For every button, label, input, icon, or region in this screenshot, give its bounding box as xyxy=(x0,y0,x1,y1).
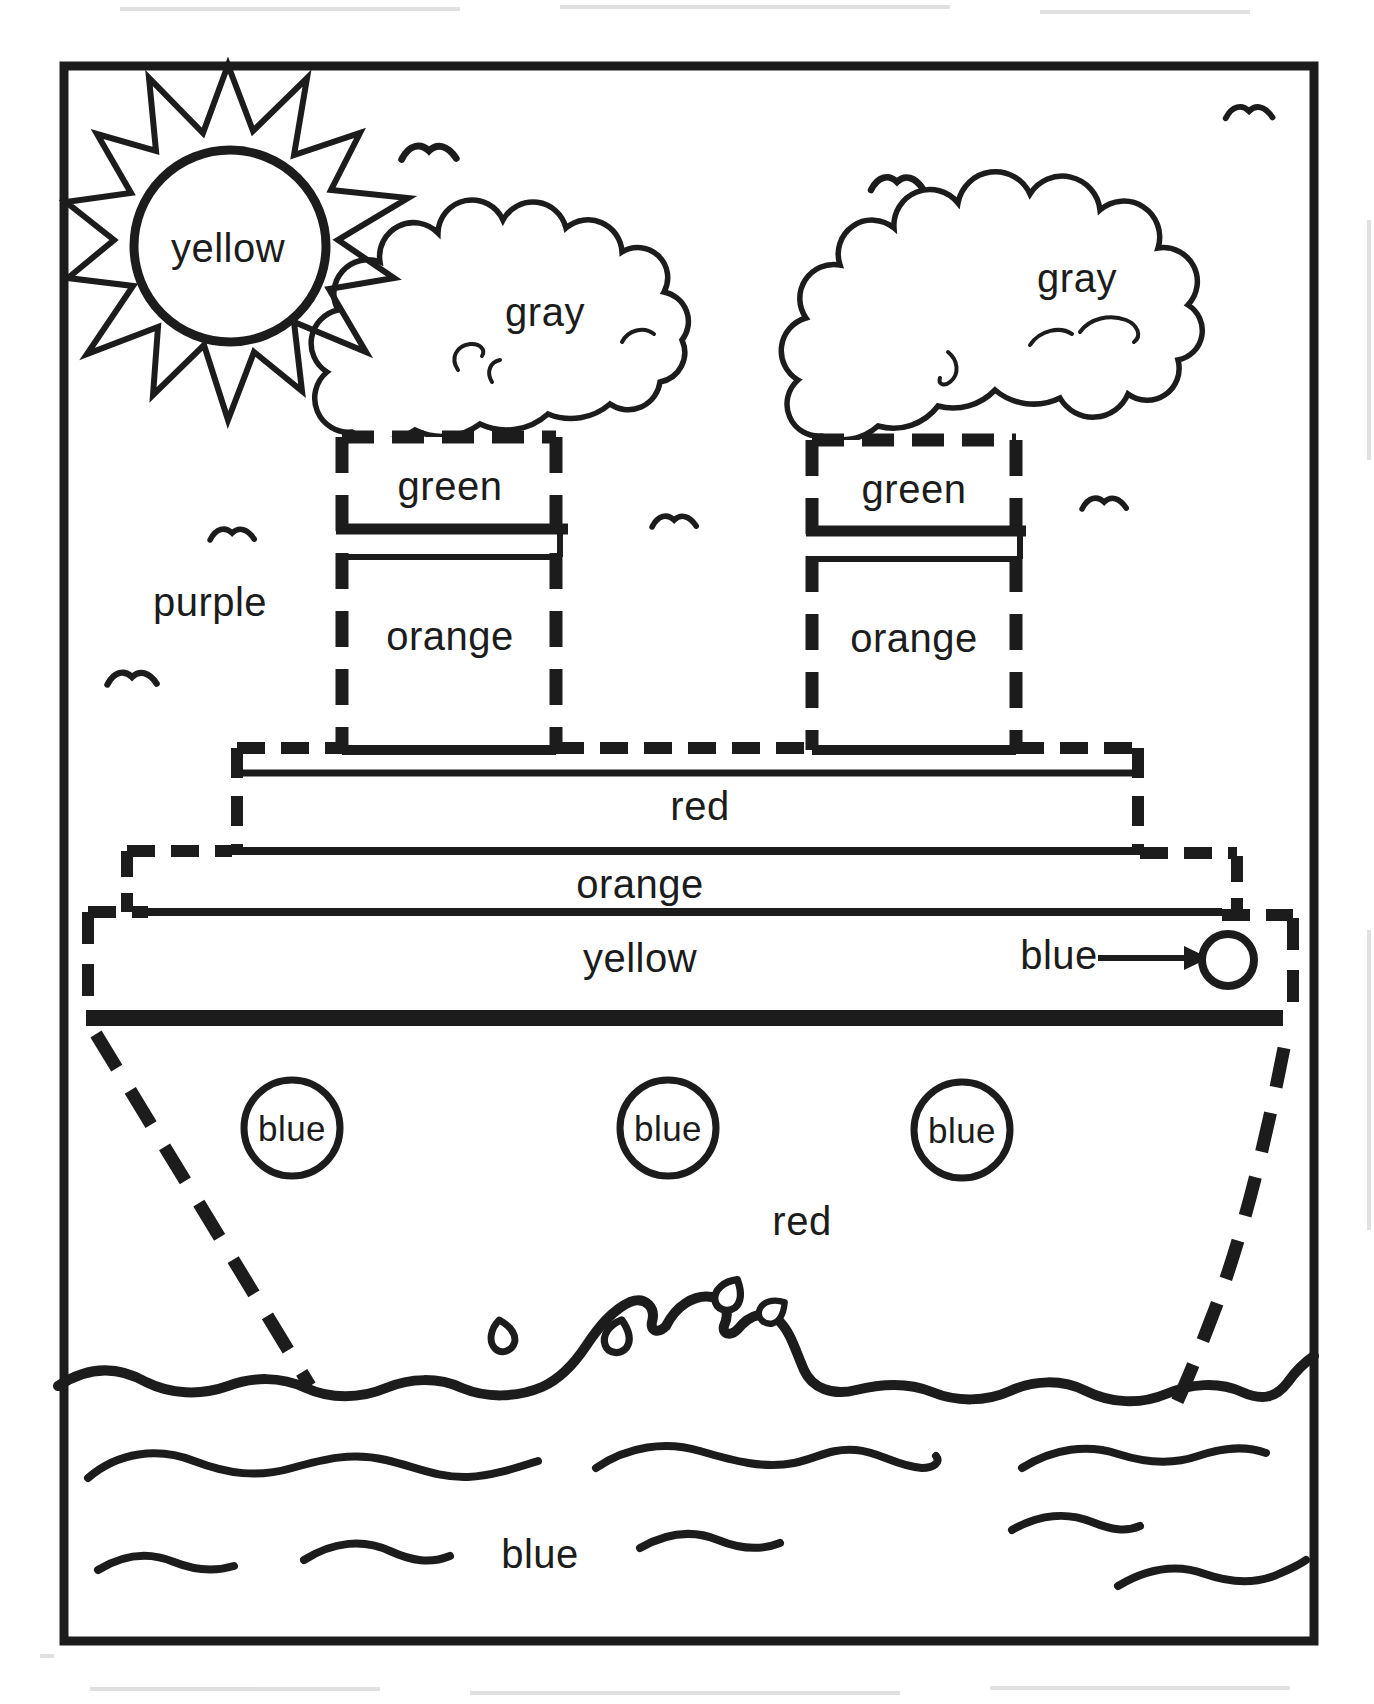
hull-porthole-label: blue xyxy=(258,1111,326,1146)
smoke-left-label: gray xyxy=(505,292,585,332)
wave-line xyxy=(304,1544,450,1561)
bird-icon xyxy=(107,673,156,685)
water xyxy=(58,1274,1314,1586)
splash-droplets xyxy=(487,1274,791,1355)
deck-porthole-label: blue xyxy=(1020,935,1098,975)
hull-porthole-label: blue xyxy=(634,1111,702,1146)
bird-icon xyxy=(1082,498,1126,509)
wave-line xyxy=(98,1556,234,1570)
bird-icon xyxy=(210,529,254,540)
hull-stern-line xyxy=(1167,1048,1284,1422)
sky-label: purple xyxy=(153,582,267,622)
wave-line xyxy=(640,1534,780,1548)
coloring-page: yellow gray gray green orange green oran… xyxy=(0,0,1374,1704)
wave-line xyxy=(1012,1516,1140,1530)
wave-line xyxy=(88,1453,538,1478)
deck-porthole-circle xyxy=(1202,934,1254,986)
lower-deck-label: yellow xyxy=(583,938,697,978)
waterline xyxy=(58,1297,1314,1402)
smoke-right-label: gray xyxy=(1037,258,1117,298)
hull-bow-line xyxy=(96,1034,310,1386)
bird-icon xyxy=(402,146,457,159)
smoke-cloud-left xyxy=(311,200,688,440)
hull-label: red xyxy=(772,1201,831,1241)
hull xyxy=(96,1034,1284,1422)
funnel-left-body-label: orange xyxy=(386,616,514,656)
hull-porthole-label: blue xyxy=(928,1113,996,1148)
splash-droplet xyxy=(487,1317,518,1354)
bird-icon xyxy=(652,516,696,527)
wave-line xyxy=(1022,1448,1266,1468)
wave-line xyxy=(596,1446,938,1468)
wave-lines xyxy=(88,1446,1306,1586)
water-label: blue xyxy=(501,1534,579,1574)
splash-droplet xyxy=(711,1274,747,1315)
funnel-left-band-label: green xyxy=(398,466,503,506)
wave-line xyxy=(1118,1560,1306,1586)
funnel-right-body-label: orange xyxy=(850,618,978,658)
upper-deck-label: red xyxy=(670,786,729,826)
sun-label: yellow xyxy=(171,228,285,268)
middle-deck-label: orange xyxy=(576,864,704,904)
bird-icon xyxy=(871,177,923,190)
funnel-right-band-label: green xyxy=(862,469,967,509)
smoke-cloud-right xyxy=(781,172,1202,440)
bird-icon xyxy=(1226,107,1273,118)
